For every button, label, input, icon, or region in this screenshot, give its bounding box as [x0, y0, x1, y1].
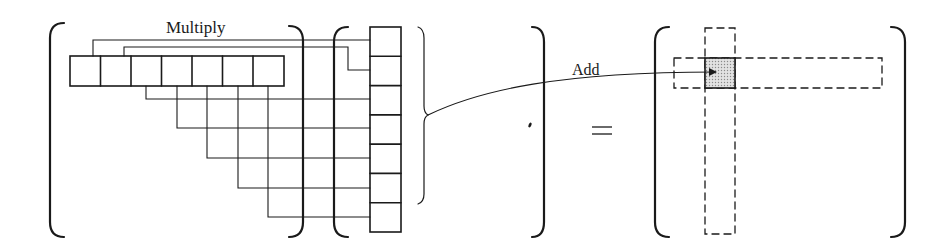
equals-sign [592, 127, 612, 134]
matrix-multiplication-diagram: Multiply Add [0, 0, 947, 250]
result-matrix-close-bracket [891, 27, 905, 237]
row-vector [70, 56, 284, 86]
result-matrix-open-bracket [655, 27, 669, 237]
middle-matrix-close-bracket [532, 27, 544, 237]
product-dot [528, 122, 533, 128]
multiply-connectors [93, 40, 370, 217]
left-matrix-close-bracket [289, 26, 303, 237]
left-matrix-open-bracket [50, 23, 64, 237]
column-vector [370, 27, 401, 232]
multiply-label: Multiply [166, 18, 226, 37]
middle-matrix-open-bracket [334, 27, 348, 237]
add-label: Add [572, 61, 600, 78]
sum-curly-brace [418, 27, 428, 204]
result-cell-shaded [705, 58, 735, 88]
add-arrow [428, 72, 716, 115]
